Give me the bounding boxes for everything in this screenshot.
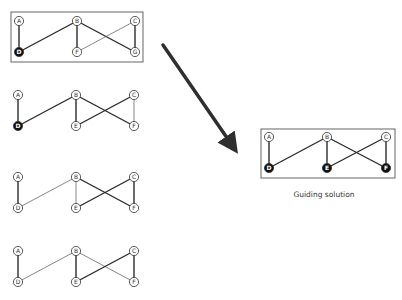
- node-e: E: [71, 203, 80, 212]
- node-label: C: [384, 133, 388, 140]
- edge-d-b: [19, 21, 77, 52]
- node-label: D: [267, 164, 272, 171]
- node-label: G: [133, 48, 138, 55]
- node-label: E: [74, 122, 78, 129]
- node-c: C: [129, 246, 138, 255]
- node-label: F: [132, 204, 136, 211]
- node-label: B: [325, 133, 329, 140]
- node-label: E: [74, 204, 78, 211]
- node-a: A: [13, 246, 22, 255]
- node-d: D: [13, 203, 22, 212]
- graphs: ABCDFGABCDEFABCDEFABCDEFABCDEF: [11, 12, 395, 287]
- node-label: F: [75, 48, 79, 55]
- edge-d-b: [18, 177, 76, 208]
- node-label: D: [16, 204, 21, 211]
- node-f: F: [129, 277, 138, 286]
- node-label: F: [132, 278, 136, 285]
- node-c: C: [129, 172, 138, 181]
- node-c: C: [129, 90, 138, 99]
- node-d: D: [13, 121, 22, 130]
- node-label: F: [384, 164, 388, 171]
- node-d: D: [264, 163, 273, 172]
- node-d: D: [13, 277, 22, 286]
- node-label: F: [132, 122, 136, 129]
- graph-2: ABCDEF: [13, 90, 138, 130]
- node-e: E: [71, 121, 80, 130]
- graph-3: ABCDEF: [13, 172, 138, 212]
- graph-1: ABCDFG: [11, 12, 143, 62]
- node-b: B: [71, 172, 80, 181]
- arrow-icon: [163, 45, 234, 148]
- node-c: C: [130, 16, 139, 25]
- graph-diagram: ABCDFGABCDEFABCDEFABCDEFABCDEF: [0, 0, 402, 300]
- node-e: E: [71, 277, 80, 286]
- node-e: E: [322, 163, 331, 172]
- node-f: F: [72, 47, 81, 56]
- edge-d-b: [18, 95, 76, 126]
- graph-4: ABCDEF: [13, 246, 138, 286]
- guiding-solution: ABCDEF: [261, 129, 395, 178]
- node-label: C: [132, 247, 136, 254]
- node-label: E: [325, 164, 329, 171]
- guiding-solution-caption: Guiding solution: [264, 190, 384, 199]
- node-label: B: [74, 173, 78, 180]
- node-a: A: [13, 90, 22, 99]
- node-a: A: [264, 132, 273, 141]
- node-g: G: [130, 47, 139, 56]
- node-label: B: [75, 17, 79, 24]
- node-b: B: [71, 90, 80, 99]
- node-label: C: [132, 91, 136, 98]
- node-a: A: [13, 172, 22, 181]
- node-label: C: [132, 173, 136, 180]
- edge-d-b: [18, 251, 76, 282]
- node-a: A: [14, 16, 23, 25]
- node-label: B: [74, 247, 78, 254]
- node-label: E: [74, 278, 78, 285]
- node-c: C: [381, 132, 390, 141]
- node-label: D: [16, 122, 21, 129]
- node-f: F: [129, 121, 138, 130]
- node-f: F: [381, 163, 390, 172]
- node-f: F: [129, 203, 138, 212]
- node-b: B: [72, 16, 81, 25]
- node-b: B: [322, 132, 331, 141]
- node-label: C: [133, 17, 137, 24]
- node-label: B: [74, 91, 78, 98]
- node-d: D: [14, 47, 23, 56]
- edge-d-b: [269, 137, 327, 168]
- node-b: B: [71, 246, 80, 255]
- transition-arrow: [163, 45, 234, 148]
- node-label: D: [17, 48, 22, 55]
- node-label: D: [16, 278, 21, 285]
